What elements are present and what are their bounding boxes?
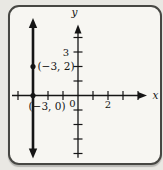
coordinate-plane: xy230(−3, 2)(−3, 0) bbox=[0, 0, 163, 170]
figure-frame: xy230(−3, 2)(−3, 0) bbox=[0, 0, 163, 170]
y-axis-label: y bbox=[71, 6, 79, 18]
x-axis-label: x bbox=[153, 89, 159, 101]
origin-label: 0 bbox=[69, 98, 75, 109]
point-label: (−3, 2) bbox=[38, 60, 75, 72]
x-axis-arrowhead bbox=[138, 92, 147, 99]
graphed-line-arrowhead-top bbox=[29, 18, 37, 28]
y-axis-arrowhead bbox=[75, 24, 82, 33]
plotted-point bbox=[30, 93, 35, 98]
y-tick-label: 3 bbox=[63, 47, 69, 58]
plotted-point bbox=[30, 64, 35, 69]
graphed-line-arrowhead-bottom bbox=[29, 149, 37, 159]
x-tick-label: 2 bbox=[105, 99, 111, 110]
point-label: (−3, 0) bbox=[29, 100, 66, 112]
